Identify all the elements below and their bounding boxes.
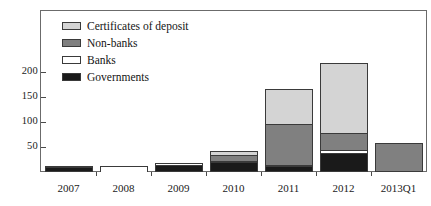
legend-item[interactable]: Governments [62, 68, 189, 85]
bar-segment[interactable] [265, 166, 313, 172]
bar-segment[interactable] [155, 165, 203, 172]
bar-segment[interactable] [265, 165, 313, 167]
legend-swatch-icon [62, 39, 81, 47]
bar-group[interactable] [45, 167, 93, 173]
bar-segment[interactable] [210, 162, 258, 172]
legend-item-label: Certificates of deposit [87, 20, 189, 32]
bar-segment[interactable] [155, 163, 203, 166]
bar-segment[interactable] [210, 161, 258, 163]
bar-segment[interactable] [265, 124, 313, 165]
bar-segment[interactable] [100, 166, 148, 172]
bar-segment[interactable] [45, 166, 93, 167]
legend-swatch-icon [62, 73, 81, 81]
bar-segment[interactable] [320, 133, 368, 150]
bar-segment[interactable] [210, 155, 258, 161]
legend-item[interactable]: Certificates of deposit [62, 17, 189, 34]
legend-item[interactable]: Non-banks [62, 34, 189, 51]
legend-swatch-icon [62, 56, 81, 64]
legend-item-label: Governments [87, 71, 149, 83]
legend-item-label: Non-banks [87, 37, 137, 49]
legend-swatch-icon [62, 22, 81, 30]
bar-segment[interactable] [375, 143, 423, 171]
bar-group[interactable] [210, 151, 258, 173]
stacked-bar-chart: 501001502002007200820092010201120122013Q… [0, 0, 431, 206]
bar-segment[interactable] [320, 153, 368, 172]
bar-segment[interactable] [210, 151, 258, 155]
bar-group[interactable] [265, 89, 313, 172]
bar-segment[interactable] [265, 89, 313, 124]
legend-item[interactable]: Banks [62, 51, 189, 68]
bar-group[interactable] [375, 143, 423, 173]
bar-segment[interactable] [320, 150, 368, 154]
legend-item-label: Banks [87, 54, 116, 66]
bar-segment[interactable] [320, 63, 368, 133]
bar-group[interactable] [320, 63, 368, 172]
bar-group[interactable] [100, 166, 148, 172]
bar-segment[interactable] [45, 167, 93, 172]
bar-group[interactable] [155, 163, 203, 173]
chart-legend: Certificates of depositNon-banksBanksGov… [62, 17, 189, 85]
